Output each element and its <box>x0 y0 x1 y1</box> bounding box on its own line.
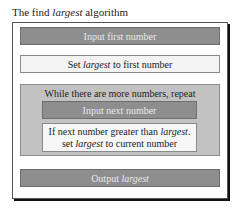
step-set-largest: Set largest to first number <box>20 55 220 73</box>
action-emphasis: largest <box>76 138 103 149</box>
step-label-emphasis: largest <box>121 173 148 184</box>
condition-line-1: If next number greater than largest. <box>43 126 196 138</box>
action-text: set <box>62 138 76 149</box>
condition-emphasis: largest <box>160 126 187 137</box>
step-label: Input next number <box>83 105 157 116</box>
step-compare-and-set: If next number greater than largest. set… <box>42 123 197 152</box>
loop-label: While there are more numbers, repeat <box>21 88 219 99</box>
condition-punct: . <box>188 126 191 137</box>
step-label-prefix: Set <box>68 59 81 70</box>
title-text: The find <box>12 6 52 18</box>
diagram-title: The find largest algorithm <box>12 6 128 19</box>
step-input-next-number: Input next number <box>42 101 197 119</box>
action-text-suffix: to current number <box>103 138 177 149</box>
title-emphasis: largest <box>52 6 82 18</box>
step-label-emphasis: largest <box>83 59 110 70</box>
step-label-prefix: Output <box>91 173 119 184</box>
step-label-suffix: to first number <box>113 59 172 70</box>
step-input-first-number: Input first number <box>20 27 220 45</box>
condition-text: If next number greater than <box>49 126 161 137</box>
title-text-suffix: algorithm <box>82 6 128 18</box>
condition-line-2: set largest to current number <box>43 138 196 150</box>
step-output-largest: Output largest <box>20 169 220 187</box>
step-label: Input first number <box>84 31 157 42</box>
